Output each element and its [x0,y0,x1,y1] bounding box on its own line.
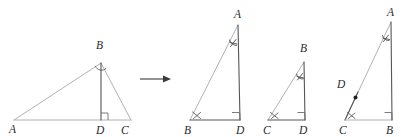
right-angle-marker-d-3 [298,113,306,121]
angle-mark-x-c-4 [348,113,356,119]
tick-mark-a-4 [383,35,390,42]
vertex-label-d-4: D [336,78,346,90]
vertex-label-d: D [95,124,105,136]
geometry-figure: A B D C [0,0,407,137]
vertex-label-c-4: C [339,124,347,136]
segment-ad-2 [238,25,240,120]
right-angle-marker-d [101,113,108,120]
point-marker-d-4 [354,96,358,100]
panel-triangle-bcd: B C D [263,42,308,136]
segment-bd-3 [304,62,305,120]
geometry-diagram-svg: A B D C [0,0,407,137]
vertex-label-d-2: D [235,124,245,136]
segment-ab-4 [391,22,392,120]
panel-triangle-acb: A D C B [336,6,395,136]
transform-arrow [140,76,171,83]
arrow-head [163,76,171,83]
angle-mark-x-b-2 [193,112,201,119]
right-angle-marker-b-4 [385,113,393,121]
angle-mark-x-c-3 [271,113,279,119]
right-angle-marker-d-2 [232,113,240,121]
vertex-label-c: C [121,124,129,136]
vertex-label-c-3: C [263,124,271,136]
vertex-label-d-3: D [298,124,308,136]
panel-original-triangle: A B D C [8,39,131,136]
vertex-label-a: A [8,123,17,135]
tick-mark-b-3 [297,74,304,81]
segment-ba-2 [190,25,238,120]
panel-triangle-abd: A B D [184,8,245,136]
vertex-label-b-4: B [386,124,393,136]
vertex-label-b-3: B [300,42,307,54]
vertex-label-b: B [96,39,103,51]
segment-ab [14,63,101,120]
vertex-label-b-2: B [184,124,191,136]
segment-bc [101,63,131,120]
vertex-label-a-2: A [233,8,242,20]
segment-cb-3 [268,62,304,120]
vertex-label-a-4: A [386,6,395,18]
